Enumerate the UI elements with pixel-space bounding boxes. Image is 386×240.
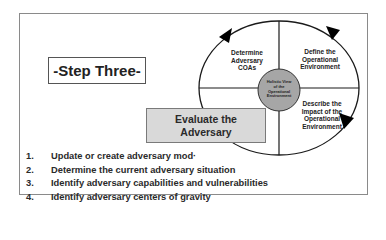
list-number: 4.	[26, 191, 51, 205]
quadrant-line: Define the	[292, 48, 348, 56]
list-number: 3.	[26, 177, 51, 191]
center-holistic-view: Holistic View of the Operational Environ…	[259, 80, 299, 99]
steps-list: 1. Update or create adversary mod· 2. De…	[26, 150, 286, 204]
quadrant-describe-impact: Describe the Impact of the Operational E…	[293, 100, 351, 130]
list-text: Update or create adversary mod·	[51, 150, 196, 164]
quadrant-line: Impact of the	[293, 108, 351, 116]
quadrant-line: COAs	[222, 64, 272, 72]
quadrant-line: Adversary	[222, 57, 272, 65]
list-text: Identify adversary capabilities and vuln…	[51, 177, 268, 191]
quadrant-determine-coas: Determine Adversary COAs	[222, 49, 272, 72]
list-text: Identify adversary centers of gravity	[51, 191, 211, 205]
evaluate-adversary-box: Evaluate the Adversary	[146, 108, 266, 143]
evaluate-line-2: Adversary	[180, 126, 231, 139]
list-text: Determine the current adversary situatio…	[51, 164, 235, 178]
list-item: 4. Identify adversary centers of gravity	[26, 191, 286, 205]
evaluate-line-1: Evaluate the	[175, 113, 237, 126]
quadrant-line: Describe the	[293, 100, 351, 108]
list-item: 2. Determine the current adversary situa…	[26, 164, 286, 178]
list-number: 1.	[26, 150, 51, 164]
quadrant-line: Operational	[293, 115, 351, 123]
center-line: Environment	[259, 94, 299, 99]
quadrant-line: Environment	[292, 63, 348, 71]
list-number: 2.	[26, 164, 51, 178]
list-item: 1. Update or create adversary mod·	[26, 150, 286, 164]
quadrant-define-environment: Define the Operational Environment	[292, 48, 348, 71]
list-item: 3. Identify adversary capabilities and v…	[26, 177, 286, 191]
quadrant-line: Environment	[293, 123, 351, 131]
arrow-head-icon	[326, 26, 340, 40]
quadrant-line: Operational	[292, 56, 348, 64]
arrow-head-icon	[219, 28, 232, 43]
quadrant-line: Determine	[222, 49, 272, 57]
